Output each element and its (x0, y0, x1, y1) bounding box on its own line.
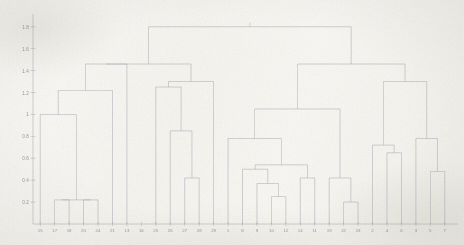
y-tick-label: 1.8 (6, 24, 29, 29)
x-leaf-label-5: 5 (429, 228, 431, 233)
x-leaf-label-1: 1 (227, 228, 229, 233)
x-leaf-label-11: 11 (312, 228, 317, 233)
x-leaf-label-22: 22 (341, 228, 346, 233)
x-leaf-label-3: 3 (415, 228, 417, 233)
x-leaf-label-16: 16 (139, 228, 144, 233)
x-leaf-label-17: 17 (52, 228, 57, 233)
y-tick-label: 0.2 (6, 200, 29, 205)
x-leaf-label-20: 20 (81, 228, 86, 233)
x-leaf-label-13: 13 (124, 228, 129, 233)
x-leaf-label-28: 28 (197, 228, 202, 233)
x-leaf-label-7: 7 (444, 228, 446, 233)
dendrogram-figure: 0.20.40.60.811.21.41.61.8 15171820242113… (0, 0, 464, 245)
y-tick-label: 1.6 (6, 46, 29, 51)
x-leaf-label-12: 12 (283, 228, 288, 233)
x-leaf-label-8: 8 (241, 228, 243, 233)
x-leaf-label-25: 25 (153, 228, 158, 233)
axis-ticks (31, 27, 445, 226)
x-leaf-label-27: 27 (182, 228, 187, 233)
x-leaf-label-23: 23 (356, 228, 361, 233)
x-leaf-label-26: 26 (168, 228, 173, 233)
dendrogram-plot (0, 0, 464, 245)
x-leaf-label-24: 24 (96, 228, 101, 233)
x-leaf-label-9: 9 (256, 228, 258, 233)
x-leaf-label-19: 19 (327, 228, 332, 233)
y-tick-label: 0.4 (6, 178, 29, 183)
x-leaf-label-4: 4 (386, 228, 388, 233)
x-leaf-label-10: 10 (269, 228, 274, 233)
y-tick-label: 0.8 (6, 134, 29, 139)
axes-lines (33, 14, 458, 224)
x-leaf-label-21: 21 (110, 228, 115, 233)
x-leaf-label-29: 29 (211, 228, 216, 233)
y-tick-label: 1.2 (6, 90, 29, 95)
dendrogram-links (40, 23, 445, 224)
x-leaf-label-6: 6 (400, 228, 402, 233)
x-leaf-label-18: 18 (67, 228, 72, 233)
y-tick-label: 1 (6, 112, 29, 117)
x-leaf-label-2: 2 (371, 228, 373, 233)
y-tick-label: 1.4 (6, 68, 29, 73)
x-leaf-label-15: 15 (38, 228, 43, 233)
x-leaf-label-14: 14 (298, 228, 303, 233)
y-tick-label: 0.6 (6, 156, 29, 161)
